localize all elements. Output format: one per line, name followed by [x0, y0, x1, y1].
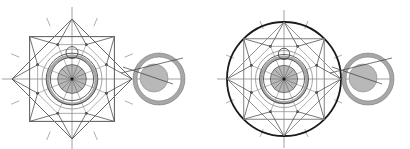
diagram-canvas: [0, 0, 410, 149]
triangulation-line: [227, 79, 251, 93]
triangulation-line: [270, 112, 284, 136]
triangulation-line: [106, 65, 132, 79]
extension-tick: [11, 54, 19, 57]
center-point: [71, 78, 74, 81]
extension-tick: [125, 54, 133, 57]
extension-tick: [94, 18, 97, 26]
extension-tick: [125, 101, 133, 104]
side-disc: [349, 64, 377, 92]
triangulation-line: [72, 113, 86, 139]
center-point: [283, 78, 286, 81]
triangulation-line: [106, 79, 132, 93]
triangulation-line: [227, 65, 251, 79]
extension-tick: [94, 132, 97, 140]
extension-tick: [11, 101, 19, 104]
triangulation-line: [317, 79, 341, 93]
side-disc: [140, 64, 168, 92]
geometric-construction-diagram: [0, 0, 410, 149]
triangulation-line: [317, 65, 341, 79]
triangulation-line: [284, 22, 298, 46]
extension-tick: [47, 132, 50, 140]
triangulation-line: [12, 79, 38, 93]
extension-tick: [47, 18, 50, 26]
triangulation-line: [284, 112, 298, 136]
triangulation-line: [270, 22, 284, 46]
triangulation-line: [58, 19, 72, 45]
triangulation-line: [12, 65, 38, 79]
triangulation-line: [72, 19, 86, 45]
triangulation-line: [58, 113, 72, 139]
